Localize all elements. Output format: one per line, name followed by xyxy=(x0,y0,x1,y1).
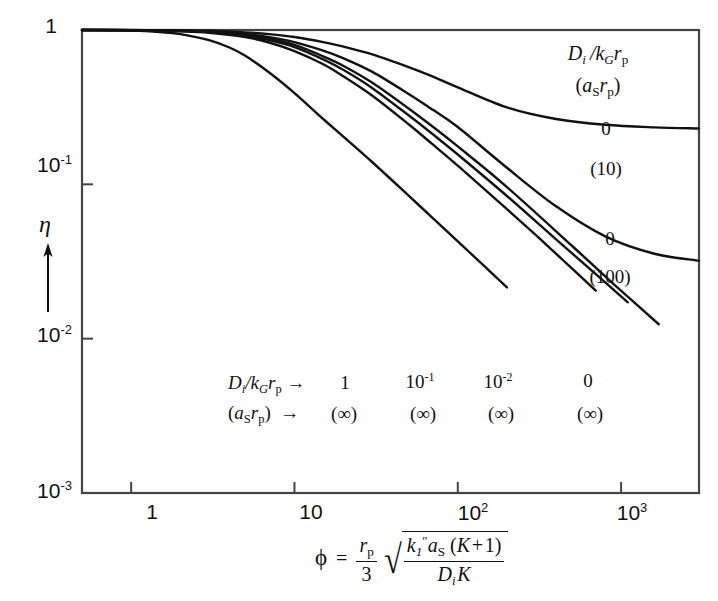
curve-label-0-10-bottom: (10) xyxy=(590,158,622,180)
y-axis-label: η xyxy=(39,211,51,238)
curve-label-10e-2-inf-top: 10-2 xyxy=(484,370,513,393)
curve-label-0-inf-bottom: (∞) xyxy=(577,403,603,425)
legend-bottom-header-line1: Di/kGrp → xyxy=(228,372,305,397)
phi-symbol: ϕ xyxy=(315,545,327,570)
curve-0 xyxy=(82,30,507,287)
curve-label-0-100-top: 0 xyxy=(605,228,615,250)
curve-1 xyxy=(82,30,596,291)
y-tick-label-10e-3: 10-3 xyxy=(37,478,72,503)
radicand: k1″aS (K + 1) Di K xyxy=(402,531,509,589)
curve-label-10e-1-inf-bottom: (∞) xyxy=(410,403,436,425)
y-axis-arrow xyxy=(43,243,52,312)
curve-label-0-inf-top: 0 xyxy=(583,370,593,392)
curve-label-1-inf-top: 1 xyxy=(340,372,350,394)
curve-label-0-10-top: 0 xyxy=(601,118,611,140)
legend-top-header-line1: Di /kGrp xyxy=(568,42,628,68)
curve-label-10e-2-inf-bottom: (∞) xyxy=(488,403,514,425)
legend-top-header-line2: (aSrp) xyxy=(575,74,620,100)
sqrt-icon: √ xyxy=(384,548,402,573)
legend-bottom-header-line2: (aSrp) → xyxy=(228,402,299,427)
curve-3 xyxy=(82,30,659,324)
x-axis-formula: ϕ = rp 3 √ k1″aS (K + 1) Di K xyxy=(315,531,508,589)
y-tick-label-1: 1 xyxy=(45,14,57,38)
curve-label-10e-1-inf-top: 10-1 xyxy=(406,370,435,393)
prefactor-fraction: rp 3 xyxy=(356,534,376,585)
y-tick-label-10e-1: 10-1 xyxy=(37,152,72,177)
curve-label-0-100-bottom: (100) xyxy=(589,266,630,288)
x-tick-label-10: 10 xyxy=(299,500,322,524)
x-tick-label-10e3: 103 xyxy=(617,500,648,525)
x-tick-label-10e2: 102 xyxy=(458,500,489,525)
x-tick-label-1: 1 xyxy=(146,500,158,524)
figure-container: 1 10-1 10-2 10-3 1 10 102 103 η Di /kGrp… xyxy=(0,0,718,601)
y-tick-label-10e-2: 10-2 xyxy=(37,322,72,347)
curve-label-1-inf-bottom: (∞) xyxy=(331,403,357,425)
